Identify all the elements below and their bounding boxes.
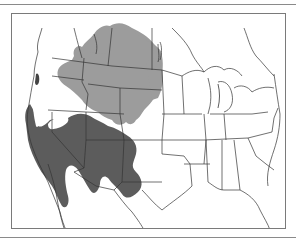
map-svg [12, 14, 286, 229]
top-rule [0, 4, 296, 5]
bottom-rule [0, 237, 296, 238]
range-map [11, 13, 286, 229]
range-dark-patch [35, 73, 39, 85]
